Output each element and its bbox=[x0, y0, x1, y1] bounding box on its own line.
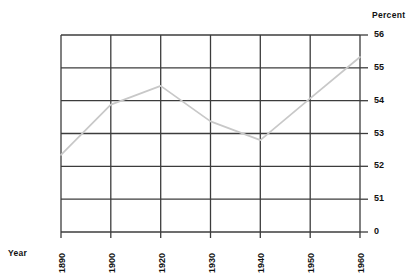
ytick-label-54: 54 bbox=[374, 95, 384, 105]
ytick-label-baseline: 0 bbox=[374, 226, 379, 236]
xtick-label-1950: 1950 bbox=[306, 253, 316, 273]
ytick-label-51: 51 bbox=[374, 193, 384, 203]
xtick-label-1890: 1890 bbox=[57, 253, 67, 273]
x-axis-title: Year bbox=[8, 248, 27, 258]
x-axis-ticks bbox=[61, 232, 360, 238]
ytick-label-56: 56 bbox=[374, 29, 384, 39]
xtick-label-1930: 1930 bbox=[207, 253, 217, 273]
ytick-label-53: 53 bbox=[374, 128, 384, 138]
ytick-label-55: 55 bbox=[374, 62, 384, 72]
line-chart-plot bbox=[0, 0, 416, 279]
xtick-label-1940: 1940 bbox=[256, 253, 266, 273]
xtick-label-1960: 1960 bbox=[356, 253, 366, 273]
xtick-label-1920: 1920 bbox=[157, 253, 167, 273]
y-axis-title: Percent bbox=[372, 10, 405, 20]
ytick-label-52: 52 bbox=[374, 160, 384, 170]
xtick-label-1900: 1900 bbox=[107, 253, 117, 273]
chart-container: Percent Year 56 55 54 53 52 51 0 1890 19… bbox=[0, 0, 416, 279]
y-axis-ticks bbox=[360, 35, 368, 232]
